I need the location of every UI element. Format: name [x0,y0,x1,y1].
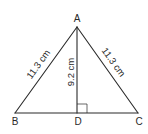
vertex-label-a: A [74,13,81,24]
vertex-label-d: D [74,116,81,127]
vertex-label-b: B [12,116,19,127]
right-angle-marker-icon [77,104,87,113]
vertex-label-c: C [135,116,142,127]
triangle-diagram: A B C D 11.3 cm 11.3 cm 9.2 cm [0,0,148,134]
side-ac [77,27,138,113]
measure-ad: 9.2 cm [65,58,76,87]
measure-ab: 11.3 cm [24,47,52,80]
measure-ac: 11.3 cm [100,45,128,78]
